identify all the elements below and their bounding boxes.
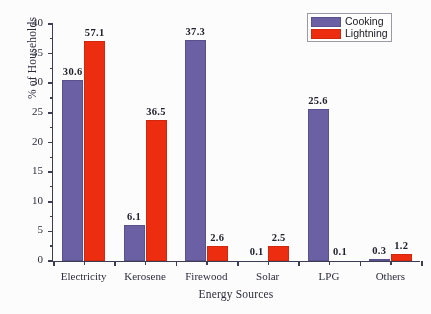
legend-label-cooking: Cooking [345,16,384,27]
y-tick-label: 25 [19,105,43,117]
y-tick-label: 35 [19,46,43,58]
y-tick-label: 15 [19,164,43,176]
bar-others-lightning [391,254,412,261]
x-tick-mark [114,261,116,266]
legend-item-cooking: Cooking [311,16,388,27]
y-tick-mark-minor [50,127,54,128]
y-tick-label: 20 [19,135,43,147]
bar-electricity-lightning [84,41,105,261]
bar-value-lpg-cooking: 25.6 [308,95,328,106]
x-label-solar: Solar [256,270,279,282]
legend-swatch-lightning [311,29,341,39]
y-tick-mark-minor [50,186,54,187]
y-tick-mark-minor [50,97,54,98]
bar-value-kerosene-cooking: 6.1 [127,211,141,222]
x-tick-mark [360,261,362,266]
x-label-others: Others [376,270,405,282]
y-tick-mark [48,201,53,203]
x-tick-mark [237,261,239,266]
bar-value-others-lightning: 1.2 [394,240,408,251]
bar-value-firewood-cooking: 37.3 [186,26,206,37]
y-tick-mark [48,142,53,144]
x-axis-title: Energy Sources [52,288,420,300]
y-tick-label: 0 [19,253,43,265]
bar-others-cooking [369,259,390,261]
x-tick-mark-minor [206,261,207,265]
y-tick-label: 40 [19,16,43,28]
bar-value-electricity-lightning: 57.1 [85,27,105,38]
chart-legend: Cooking Lightning [307,13,392,42]
x-label-electricity: Electricity [61,270,107,282]
x-tick-mark-minor [84,261,85,265]
bar-chart: % of Households 0510152025303540 30.657.… [0,0,431,314]
bar-value-firewood-lightning: 2.6 [210,232,224,243]
y-tick-label: 5 [19,223,43,235]
x-tick-mark-minor [145,261,146,265]
x-tick-mark [298,261,300,266]
bar-lpg-cooking [308,109,329,261]
y-tick-mark [48,53,53,55]
plot-area: 0510152025303540 30.657.16.136.537.32.60… [52,25,420,262]
bar-kerosene-cooking [124,225,145,261]
y-tick-mark [48,82,53,84]
y-tick-mark-minor [50,245,54,246]
bar-firewood-cooking [185,40,206,261]
legend-item-lightning: Lightning [311,28,388,39]
legend-label-lightning: Lightning [345,28,388,39]
bar-solar-lightning [268,246,289,261]
y-tick-mark [48,23,53,25]
x-tick-mark [176,261,178,266]
y-tick-mark-minor [50,216,54,217]
x-label-firewood: Firewood [185,270,227,282]
y-tick-mark [48,112,53,114]
y-tick-mark [48,231,53,233]
bar-electricity-cooking [62,80,83,261]
bar-firewood-lightning [207,246,228,261]
bar-value-solar-lightning: 2.5 [272,232,286,243]
y-tick-mark-minor [50,38,54,39]
x-label-kerosene: Kerosene [124,270,166,282]
x-tick-mark [421,261,423,266]
y-tick-mark-minor [50,68,54,69]
x-label-lpg: LPG [319,270,340,282]
bar-value-solar-cooking: 0.1 [250,246,264,257]
y-tick-mark-minor [50,157,54,158]
bar-value-electricity-cooking: 30.6 [63,66,83,77]
x-tick-mark-minor [390,261,391,265]
bar-value-lpg-lightning: 0.1 [333,246,347,257]
y-tick-mark [48,171,53,173]
x-tick-mark [53,261,55,266]
x-tick-mark-minor [268,261,269,265]
bar-value-others-cooking: 0.3 [372,245,386,256]
bar-value-kerosene-lightning: 36.5 [146,106,166,117]
x-tick-mark-minor [329,261,330,265]
y-tick-label: 10 [19,194,43,206]
bar-kerosene-lightning [146,120,167,261]
y-tick-label: 30 [19,75,43,87]
legend-swatch-cooking [311,17,341,27]
